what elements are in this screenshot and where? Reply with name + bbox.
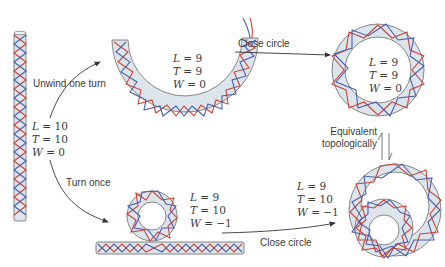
looped-T: T = 10	[190, 204, 232, 217]
turn-arrow	[50, 160, 108, 222]
equivalent-label: Equivalent topologically	[321, 126, 377, 150]
linear-dna-rod	[14, 31, 26, 221]
arc-W: W = 0	[173, 78, 206, 91]
variable-symbol: W	[369, 82, 380, 94]
variable-symbol: T	[190, 204, 197, 216]
variable-symbol: L	[32, 120, 39, 132]
close-circle-top-label: Close circle	[238, 38, 290, 50]
relaxed-W: W = 0	[369, 82, 402, 95]
supercoiled-values: L = 9 T = 10 W = −1	[297, 180, 339, 219]
relaxed-L: L = 9	[369, 56, 402, 69]
close-circle-bottom-arrow	[222, 223, 335, 233]
unwound-arc-values: L = 9 T = 9 W = 0	[173, 52, 206, 91]
linear-T: T = 10	[32, 133, 68, 146]
relaxed-circle-values: L = 9 T = 9 W = 0	[369, 56, 402, 95]
variable-symbol: W	[297, 206, 308, 218]
supercoiled-L: L = 9	[297, 180, 339, 193]
variable-symbol: W	[173, 78, 184, 90]
variable-symbol: L	[297, 180, 304, 192]
linear-W: W = 0	[32, 146, 68, 159]
variable-symbol: T	[173, 65, 180, 77]
equivalent-down-arrow	[389, 133, 392, 160]
variable-symbol: L	[173, 52, 180, 64]
variable-symbol: L	[190, 191, 197, 203]
variable-symbol: W	[190, 217, 201, 229]
arc-T: T = 9	[173, 65, 206, 78]
equivalent-line1: Equivalent	[321, 126, 377, 138]
supercoiled-circular-dna	[349, 164, 441, 258]
linear-values: L = 10 T = 10 W = 0	[32, 120, 68, 159]
turn-label: Turn once	[66, 177, 111, 189]
linear-L: L = 10	[32, 120, 68, 133]
variable-symbol: T	[32, 133, 39, 145]
variable-symbol: T	[297, 193, 304, 205]
variable-symbol: T	[369, 69, 376, 81]
arc-L: L = 9	[173, 52, 206, 65]
looped-W: W = −1	[190, 217, 232, 230]
supercoiled-T: T = 10	[297, 193, 339, 206]
looped-L: L = 9	[190, 191, 232, 204]
equivalent-line2: topologically	[321, 138, 377, 150]
variable-symbol: L	[369, 56, 376, 68]
relaxed-T: T = 9	[369, 69, 402, 82]
unwind-arrow	[50, 62, 100, 118]
equivalent-up-arrow	[378, 133, 382, 160]
unwind-label: Unwind one turn	[33, 78, 106, 90]
close-circle-bottom-label: Close circle	[260, 237, 312, 249]
supercoiled-W: W = −1	[297, 206, 339, 219]
looped-values: L = 9 T = 10 W = −1	[190, 191, 232, 230]
variable-symbol: W	[32, 146, 43, 158]
